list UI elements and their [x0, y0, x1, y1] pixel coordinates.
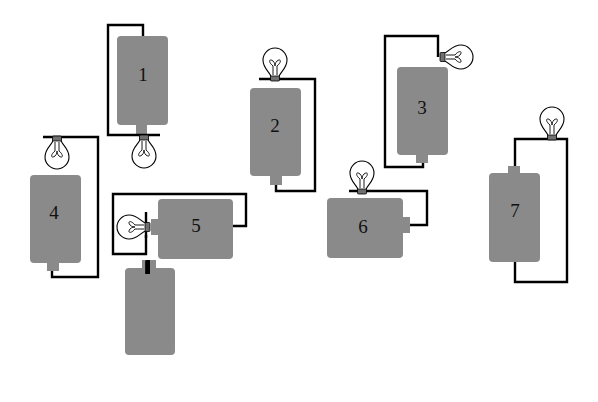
- circuit-label-5: 5: [191, 215, 201, 236]
- battery-1-terminal: [136, 125, 147, 134]
- bulb-icon-3: [440, 45, 473, 69]
- circuit-8: [125, 260, 175, 355]
- circuit-1: 1: [108, 25, 168, 168]
- battery-7-terminal: [508, 166, 520, 174]
- circuit-3: 3: [385, 36, 473, 167]
- circuit-label-6: 6: [358, 216, 368, 237]
- circuit-label-1: 1: [138, 64, 148, 85]
- circuit-5: 5: [113, 194, 246, 259]
- battery-4-terminal: [47, 263, 59, 271]
- circuit-diagram: 1 2 3 4 5 6: [0, 0, 598, 402]
- bulb-icon-2: [263, 48, 287, 81]
- bulb-icon-4: [45, 136, 69, 169]
- bulb-icon-1: [132, 135, 156, 168]
- circuit-4: 4: [30, 136, 98, 277]
- circuit-label-3: 3: [417, 97, 427, 118]
- circuit-label-7: 7: [510, 200, 520, 221]
- battery-2-terminal: [270, 176, 282, 185]
- circuit-2: 2: [250, 48, 315, 191]
- circuit-7: 7: [489, 107, 567, 282]
- battery-3-terminal: [416, 155, 428, 163]
- bulb-icon-7: [540, 107, 564, 140]
- circuit-label-4: 4: [49, 202, 59, 223]
- circuit-6: 6: [327, 161, 427, 258]
- battery-5-terminal: [151, 219, 159, 235]
- circuit-label-2: 2: [270, 115, 280, 136]
- battery-6-terminal: [403, 217, 410, 233]
- bulb-icon-6: [350, 161, 374, 194]
- battery-8: [125, 268, 175, 355]
